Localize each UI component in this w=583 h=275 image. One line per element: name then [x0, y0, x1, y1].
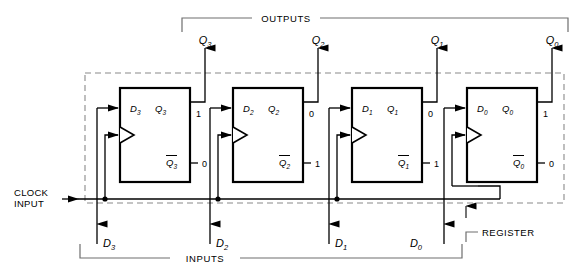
clock-edge-triangle: [352, 127, 366, 143]
qbar-pin-label-1: Q1: [398, 157, 409, 170]
register-callout-leader: [466, 206, 478, 242]
clock-riser: [337, 135, 350, 199]
clock-input-label-line2: INPUT: [14, 198, 44, 209]
qbar-value-2: 1: [315, 159, 320, 169]
input-label-D3: D3: [103, 237, 116, 252]
qbar-pin-label-3: Q3: [166, 157, 177, 170]
d-pin-label-0: D0: [477, 103, 488, 116]
clock-bus: [62, 186, 500, 199]
q-value-0: 1: [543, 109, 548, 119]
q-value-2: 0: [309, 109, 314, 119]
q-pin-label-1: Q1: [387, 103, 398, 116]
q-pin-label-2: Q2: [268, 103, 279, 116]
flipflop-stage-1: [329, 48, 437, 202]
qbar-value-1: 1: [434, 159, 439, 169]
flipflop-stage-0: [444, 48, 552, 224]
register-diagram-canvas: OUTPUTS INPUTS REGISTER CLOCK INPUT: [0, 0, 583, 275]
q-pin-label-0: Q0: [502, 103, 513, 116]
clock-junction-dot: [334, 196, 339, 201]
clock-riser: [218, 135, 231, 199]
q-output-wire: [190, 60, 205, 102]
clock-riser: [452, 135, 465, 186]
output-label-Q0: Q0: [546, 34, 560, 49]
q-output-wire: [422, 60, 437, 102]
q-output-wire: [537, 60, 552, 102]
input-label-D0: D0: [410, 237, 423, 252]
qbar-pin-label-0: Q0: [513, 157, 524, 170]
d-pin-label-1: D1: [362, 103, 373, 116]
clock-edge-triangle: [233, 127, 247, 143]
d-pin-label-3: D3: [130, 103, 141, 116]
clock-riser: [105, 135, 118, 199]
qbar-value-3: 0: [202, 159, 207, 169]
flipflop-stage-3: [97, 48, 205, 202]
logic-diagram-svg: OUTPUTS INPUTS REGISTER CLOCK INPUT: [0, 0, 583, 275]
clock-junction-dot: [102, 196, 107, 201]
output-label-Q2: Q2: [312, 34, 326, 49]
d-pin-label-2: D2: [243, 103, 254, 116]
output-label-Q1: Q1: [431, 34, 444, 49]
qbar-value-0: 0: [549, 159, 554, 169]
qbar-pin-label-2: Q2: [279, 157, 290, 170]
input-label-D2: D2: [216, 237, 229, 252]
clock-input-label-line1: CLOCK: [14, 187, 49, 198]
clock-edge-triangle: [120, 127, 134, 143]
register-label: REGISTER: [482, 227, 535, 238]
inputs-label: INPUTS: [186, 253, 224, 264]
q-value-1: 0: [428, 109, 433, 119]
input-label-D1: D1: [335, 237, 347, 252]
output-label-Q3: Q3: [199, 34, 213, 49]
register-dashed-boundary: [85, 73, 564, 203]
outputs-bracket: [182, 18, 568, 32]
outputs-label: OUTPUTS: [261, 13, 311, 24]
inputs-bracket: [80, 244, 462, 258]
q-output-wire: [303, 60, 318, 102]
q-pin-label-3: Q3: [155, 103, 166, 116]
clock-edge-triangle: [467, 127, 481, 143]
q-value-3: 1: [196, 109, 201, 119]
clock-junction-dot: [215, 196, 220, 201]
flipflop-stage-2: [210, 48, 318, 202]
